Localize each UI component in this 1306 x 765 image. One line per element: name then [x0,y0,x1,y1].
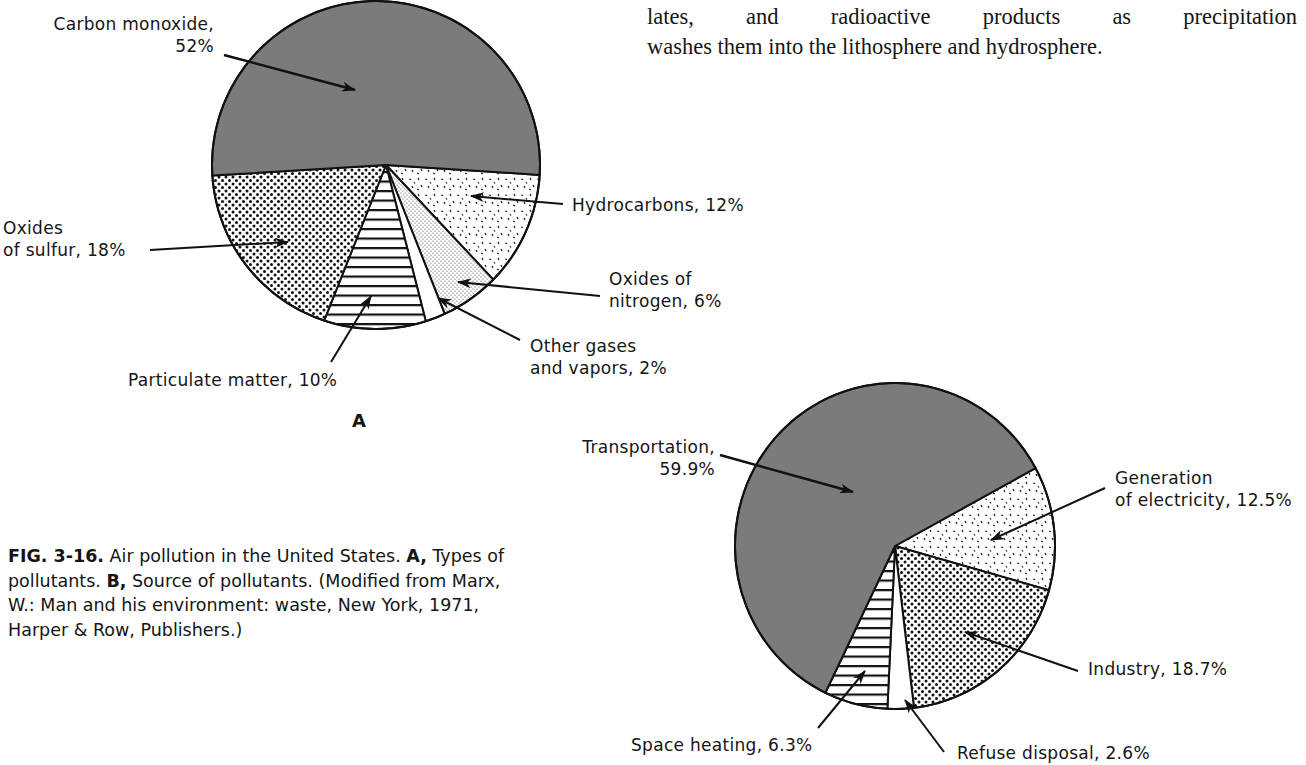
panel-letter-a: A [352,410,366,431]
label-particulate-matter: Particulate matter, 10% [128,369,337,391]
pie-chart-b [735,383,1055,709]
label-carbon-monoxide: Carbon monoxide, 52% [20,13,214,57]
label-space-heating: Space heating, 6.3% [631,734,813,756]
label-refuse-disposal: Refuse disposal, 2.6% [957,742,1150,764]
label-hydrocarbons: Hydrocarbons, 12% [572,194,744,216]
caption-part-1: Air pollution in the United States. [104,546,406,566]
label-transportation: Transportation, 59.9% [540,436,715,480]
label-other-gases: Other gases and vapors, 2% [530,335,667,379]
figure-page: lates, and radioactive products as preci… [0,0,1306,765]
label-industry: Industry, 18.7% [1088,658,1227,680]
figure-caption: FIG. 3-16. Air pollution in the United S… [8,544,508,642]
label-oxides-of-sulfur: Oxides of sulfur, 18% [3,217,126,261]
pie-chart-a [212,1,540,329]
label-generation-of-electricity: Generation of electricity, 12.5% [1115,467,1292,511]
arrow-other-gases [438,298,520,340]
pie-slice-carbon-monoxide [212,1,540,176]
caption-b-label: B, [106,571,126,591]
label-oxides-of-nitrogen: Oxides of nitrogen, 6% [609,268,722,312]
caption-fig-label: FIG. 3-16. [8,546,104,566]
caption-a-label: A, [406,546,427,566]
arrow-refuse-disposal [905,700,944,752]
